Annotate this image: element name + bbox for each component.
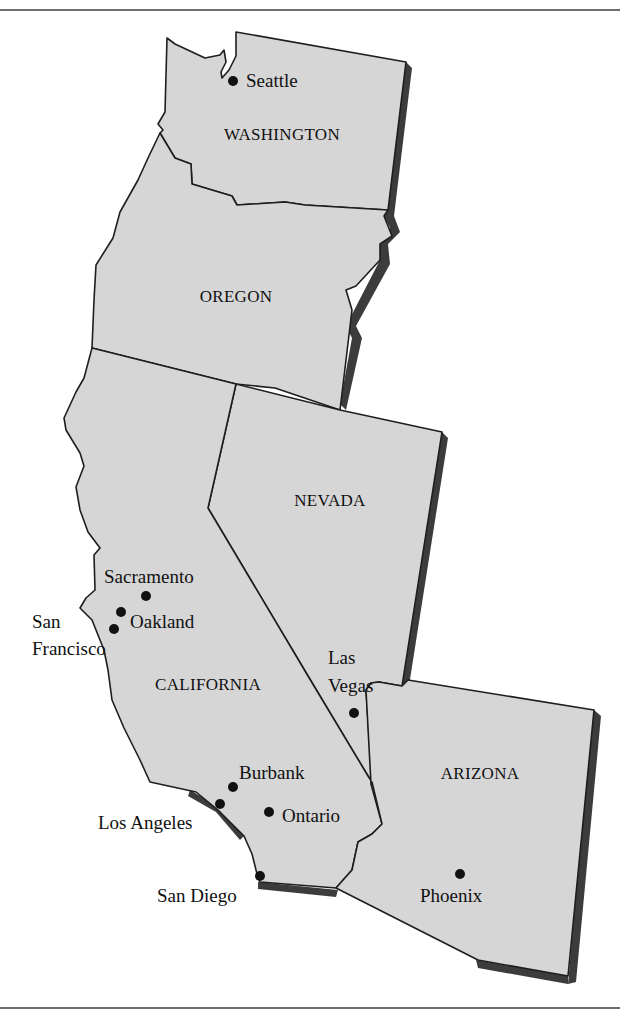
state-washington[interactable]	[158, 32, 406, 210]
city-label-oakland: Oakland	[130, 611, 195, 632]
city-label-los-angeles: Los Angeles	[98, 812, 192, 833]
city-dot-los-angeles[interactable]	[215, 799, 225, 809]
city-label-sacramento: Sacramento	[104, 566, 194, 587]
city-dot-las-vegas[interactable]	[349, 708, 359, 718]
label-nevada: NEVADA	[294, 491, 366, 510]
city-label-burbank: Burbank	[239, 762, 305, 783]
label-california: CALIFORNIA	[155, 675, 261, 694]
city-dot-ontario[interactable]	[264, 807, 274, 817]
western-us-map: WASHINGTON OREGON NEVADA CALIFORNIA ARIZ…	[0, 0, 620, 1012]
city-label-san-diego: San Diego	[157, 885, 237, 906]
label-arizona: ARIZONA	[441, 764, 520, 783]
city-dot-oakland[interactable]	[116, 607, 126, 617]
label-washington: WASHINGTON	[224, 125, 340, 144]
city-dot-burbank[interactable]	[228, 782, 238, 792]
city-dot-sacramento[interactable]	[141, 591, 151, 601]
city-label-seattle: Seattle	[246, 70, 298, 91]
city-label-san-francisco-line1: San	[32, 611, 61, 632]
city-label-ontario: Ontario	[282, 805, 340, 826]
city-label-las-vegas-line2: Vegas	[328, 675, 373, 696]
city-dot-phoenix[interactable]	[455, 869, 465, 879]
city-label-phoenix: Phoenix	[420, 885, 483, 906]
city-dot-san-francisco[interactable]	[109, 624, 119, 634]
city-dot-san-diego[interactable]	[255, 871, 265, 881]
city-label-las-vegas-line1: Las	[328, 647, 355, 668]
label-oregon: OREGON	[200, 287, 273, 306]
city-dot-seattle[interactable]	[228, 76, 238, 86]
city-label-san-francisco-line2: Francisco	[32, 638, 106, 659]
